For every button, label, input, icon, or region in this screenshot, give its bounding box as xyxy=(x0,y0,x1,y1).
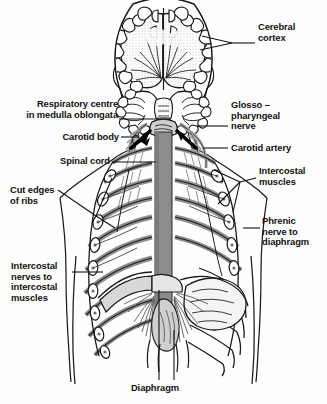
label-diaphragm: Diaphragm xyxy=(110,383,200,394)
label-glossopharyngeal-nerve: Glosso – pharyngeal nerve xyxy=(231,100,280,132)
label-intercostal-muscles: Intercostal muscles xyxy=(259,166,305,187)
label-carotid-body: Carotid body xyxy=(0,132,119,143)
label-intercostal-nerves: Intercostal nerves to intercostal muscle… xyxy=(11,261,57,303)
label-respiratory-centre: Respiratory centre in medulla oblongata xyxy=(4,99,118,120)
label-cerebral-cortex: Cerebral cortex xyxy=(258,22,295,43)
label-cut-edges-of-ribs: Cut edges of ribs xyxy=(10,185,54,206)
label-spinal-cord: Spinal cord xyxy=(0,156,110,167)
label-phrenic-nerve: Phrenic nerve to diaphragm xyxy=(262,216,309,248)
cerebral-cortex xyxy=(111,7,215,93)
label-carotid-artery: Carotid artery xyxy=(231,143,291,154)
